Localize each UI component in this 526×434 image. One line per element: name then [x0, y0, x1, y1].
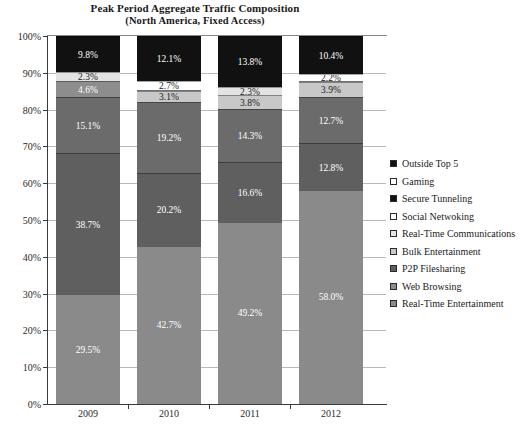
legend-swatch-social-netwoking: [390, 213, 397, 220]
bar-segment-value-label: 20.2%: [157, 205, 182, 215]
bar-segment-value-label: 4.6%: [78, 85, 98, 95]
bar-segment-value-label: 10.4%: [319, 51, 344, 61]
legend-item-secure-tunneling[interactable]: Secure Tunneling: [390, 190, 526, 208]
bar-segment-value-label: 3.9%: [321, 85, 341, 95]
x-axis-label-2012: 2012: [299, 408, 363, 419]
bar-segment-value-label: 2.3%: [240, 87, 260, 95]
legend: Outside Top 5GamingSecure TunnelingSocia…: [390, 155, 526, 313]
chart-title-line-1: Peak Period Aggregate Traffic Compositio…: [0, 2, 390, 15]
bar-2011[interactable]: 49.2%16.6%14.3%3.8%2.3%13.8%: [218, 36, 282, 404]
y-axis-label: 80%: [0, 105, 41, 115]
legend-swatch-real-time-entertainment: [390, 300, 397, 307]
bar-segment-social-netwoking[interactable]: 2.7%: [137, 81, 201, 91]
y-axis-label: 30%: [0, 289, 41, 299]
bar-segment-outside-top-5[interactable]: 10.4%: [299, 36, 363, 74]
bar-segment-real-time-entertainment[interactable]: 29.5%: [56, 295, 120, 404]
legend-item-label: Outside Top 5: [402, 158, 458, 169]
bar-segment-real-time-entertainment[interactable]: 58.0%: [299, 191, 363, 404]
legend-item-label: Real-Time Entertainment: [402, 298, 504, 309]
legend-item-real-time-communications[interactable]: Real-Time Communications: [390, 225, 526, 243]
y-axis-label: 50%: [0, 215, 41, 225]
bar-segment-p2p-filesharing[interactable]: 16.6%: [218, 162, 282, 223]
x-axis-tick: [128, 404, 129, 409]
bar-segment-bulk-entertainment[interactable]: 14.3%: [218, 109, 282, 162]
y-axis-tick: [43, 404, 48, 405]
bar-segment-value-label: 19.2%: [157, 133, 182, 143]
bar-segment-web-browsing[interactable]: 12.8%: [299, 143, 363, 190]
y-axis-label: 90%: [0, 68, 41, 78]
y-axis-label: 60%: [0, 178, 41, 188]
x-axis-tick: [209, 404, 210, 409]
legend-item-label: Bulk Entertainment: [402, 246, 481, 257]
legend-swatch-web-browsing: [390, 283, 397, 290]
bar-segment-value-label: 14.3%: [238, 131, 263, 141]
bar-2009[interactable]: 29.5%38.7%15.1%4.6%2.3%9.8%: [56, 36, 120, 404]
y-axis-label: 10%: [0, 362, 41, 372]
legend-swatch-outside-top-5: [390, 160, 397, 167]
bar-segment-real-time-entertainment[interactable]: 49.2%: [218, 223, 282, 404]
x-axis-tick: [290, 404, 291, 409]
legend-item-outside-top-5[interactable]: Outside Top 5: [390, 155, 526, 173]
bar-segment-real-time-communications[interactable]: 3.8%: [218, 95, 282, 109]
bar-segment-value-label: 12.1%: [157, 54, 182, 64]
chart-title-line-2: (North America, Fixed Access): [0, 15, 390, 28]
bar-segment-bulk-entertainment[interactable]: 15.1%: [56, 97, 120, 153]
bar-segment-value-label: 58.0%: [319, 292, 344, 302]
bar-segment-p2p-filesharing[interactable]: 20.2%: [137, 173, 201, 247]
bar-2010[interactable]: 42.7%20.2%19.2%3.1%2.7%12.1%: [137, 36, 201, 404]
bar-segment-real-time-communications[interactable]: 3.9%: [299, 82, 363, 96]
legend-item-label: Secure Tunneling: [402, 193, 472, 204]
bar-segment-value-label: 49.2%: [238, 308, 263, 318]
legend-item-gaming[interactable]: Gaming: [390, 173, 526, 191]
legend-item-label: P2P Filesharing: [402, 263, 465, 274]
x-axis-label-2011: 2011: [218, 408, 282, 419]
legend-item-label: Real-Time Communications: [402, 228, 515, 239]
bar-segment-social-netwoking[interactable]: 2.2%: [299, 74, 363, 82]
bar-segment-outside-top-5[interactable]: 13.8%: [218, 36, 282, 87]
bar-segment-value-label: 2.3%: [78, 72, 98, 80]
bar-segment-value-label: 16.6%: [238, 188, 263, 198]
bar-2012[interactable]: 58.0%12.8%12.7%3.9%2.2%10.4%: [299, 36, 363, 404]
bar-segment-value-label: 15.1%: [76, 121, 101, 131]
legend-item-bulk-entertainment[interactable]: Bulk Entertainment: [390, 243, 526, 261]
chart-container: Peak Period Aggregate Traffic Compositio…: [0, 0, 526, 434]
y-axis-label: 20%: [0, 325, 41, 335]
bar-segment-outside-top-5[interactable]: 12.1%: [137, 36, 201, 81]
legend-item-social-netwoking[interactable]: Social Netwoking: [390, 208, 526, 226]
y-axis-tick: [43, 36, 48, 37]
bar-segment-value-label: 29.5%: [76, 345, 101, 355]
bar-segment-value-label: 13.8%: [238, 57, 263, 67]
legend-item-p2p-filesharing[interactable]: P2P Filesharing: [390, 260, 526, 278]
legend-swatch-p2p-filesharing: [390, 265, 397, 272]
bar-segment-social-netwoking[interactable]: 2.3%: [56, 72, 120, 80]
bar-segment-real-time-entertainment[interactable]: 42.7%: [137, 247, 201, 404]
bar-segment-value-label: 12.7%: [319, 116, 344, 126]
bar-segment-value-label: 2.2%: [321, 74, 341, 82]
bar-segment-real-time-communications[interactable]: 3.1%: [137, 91, 201, 102]
bar-segment-value-label: 9.8%: [78, 50, 98, 60]
bar-segment-value-label: 2.7%: [159, 81, 179, 91]
bar-segment-value-label: 3.1%: [159, 92, 179, 102]
legend-swatch-gaming: [390, 178, 397, 185]
y-axis-label: 100%: [0, 31, 41, 41]
legend-item-label: Social Netwoking: [402, 211, 474, 222]
legend-item-real-time-entertainment[interactable]: Real-Time Entertainment: [390, 295, 526, 313]
legend-item-label: Web Browsing: [402, 281, 461, 292]
legend-item-web-browsing[interactable]: Web Browsing: [390, 278, 526, 296]
bar-segment-value-label: 3.8%: [240, 98, 260, 108]
bar-segment-p2p-filesharing[interactable]: 38.7%: [56, 153, 120, 295]
bar-segment-real-time-communications[interactable]: 4.6%: [56, 81, 120, 98]
bar-segment-value-label: 42.7%: [157, 320, 182, 330]
legend-swatch-secure-tunneling: [390, 195, 397, 202]
bar-segment-outside-top-5[interactable]: 9.8%: [56, 36, 120, 72]
x-axis-label-2009: 2009: [56, 408, 120, 419]
bar-segment-bulk-entertainment[interactable]: 19.2%: [137, 102, 201, 173]
y-axis-label: 40%: [0, 252, 41, 262]
bar-segment-bulk-entertainment[interactable]: 12.7%: [299, 97, 363, 144]
bar-segment-social-netwoking[interactable]: 2.3%: [218, 87, 282, 95]
legend-swatch-bulk-entertainment: [390, 248, 397, 255]
x-axis-line: [47, 404, 387, 405]
bar-segment-value-label: 38.7%: [76, 220, 101, 230]
legend-swatch-real-time-communications: [390, 230, 397, 237]
y-axis-label: 70%: [0, 141, 41, 151]
